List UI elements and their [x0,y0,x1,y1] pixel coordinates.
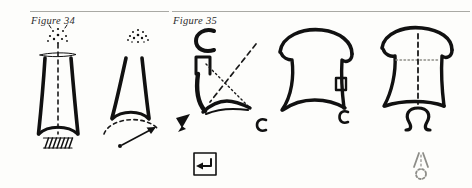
burst-dots-icon [47,25,68,44]
caption-rule-figure-34 [30,11,169,12]
origin-dot [118,144,122,148]
caption-rule-figure-35 [172,11,470,12]
pendant-mark-icon [408,150,434,182]
pendant-chevron-left [414,153,419,167]
tube [196,57,210,74]
left-downstroke [383,49,395,106]
burst-dots-icon [127,29,149,43]
return-square [194,153,216,175]
base-curve [283,100,345,110]
sweep-stroke-tail [206,109,248,114]
c-glyph-small [340,111,349,122]
dome-outline [382,28,452,50]
hatch-block [44,138,73,148]
body-left-stroke [39,58,46,134]
return-arrowhead [196,163,203,170]
figure-plate: Figure 34 Figure 35 [0,0,472,188]
dome-outline [280,30,352,54]
drawing-dome-bell [268,28,366,132]
pendant-circle [416,169,426,179]
figure-label-35: Figure 35 [173,15,217,26]
left-downstroke [281,53,293,110]
c-glyph-small [257,119,266,130]
omega-glyph [406,108,430,130]
pendant-chevron-right [423,153,428,167]
base-curve [112,112,149,119]
drawing-tapered-vessel [18,24,98,150]
curved-downstroke [197,74,205,111]
return-mark-icon [190,150,220,180]
v-right-stroke [142,58,149,118]
dashed-guide [210,44,256,102]
drawing-c-tube [176,26,276,138]
v-left-stroke [112,58,126,118]
wedge-icon [176,114,190,132]
drawing-dome-omega [372,26,468,136]
base-bar [385,102,444,107]
drawing-v-vessel [98,26,186,150]
body-right-stroke [71,58,78,134]
c-glyph-top [196,30,214,51]
right-downstroke [442,50,452,106]
